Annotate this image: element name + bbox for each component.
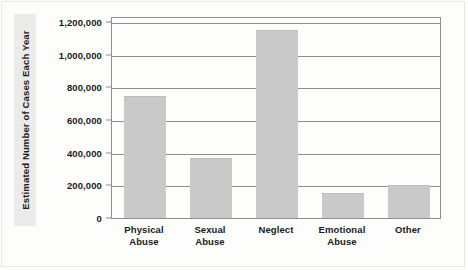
bar [124,96,166,219]
x-tick-label-line: Abuse [309,236,375,248]
bar [256,30,298,218]
y-tick-label: 1,200,000 [59,17,102,28]
x-tick-label: Other [375,224,441,236]
plot-area [111,17,441,219]
y-tick-label: 0 [97,213,102,224]
bar [388,185,430,218]
x-tick-label-line: Emotional [309,224,375,236]
y-tick-label: 200,000 [67,180,102,191]
x-tick-label: EmotionalAbuse [309,224,375,248]
x-tick-label-line: Abuse [111,236,177,248]
y-tick-label: 600,000 [67,115,102,126]
y-axis-title: Estimated Number of Cases Each Year [14,14,36,226]
x-tick-label: SexualAbuse [177,224,243,248]
x-tick-label-line: Physical [111,224,177,236]
bar-chart-figure: Estimated Number of Cases Each Year 0200… [0,0,468,270]
y-axis-tick-labels: 0200,000400,000600,000800,0001,000,0001,… [40,0,106,270]
x-axis-category-labels: PhysicalAbuseSexualAbuseNeglectEmotional… [111,224,441,264]
y-tick-label: 1,000,000 [59,49,102,60]
x-tick-label-line: Sexual [177,224,243,236]
bar [190,158,232,218]
x-tick-label-line: Abuse [177,236,243,248]
bar-series [112,18,440,218]
y-tick-label: 400,000 [67,147,102,158]
x-tick-label: PhysicalAbuse [111,224,177,248]
x-tick-label-line: Neglect [243,224,309,236]
y-axis-title-text: Estimated Number of Cases Each Year [20,30,31,209]
x-tick-label-line: Other [375,224,441,236]
y-tick-label: 800,000 [67,82,102,93]
x-tick-label: Neglect [243,224,309,236]
bar [322,193,364,218]
